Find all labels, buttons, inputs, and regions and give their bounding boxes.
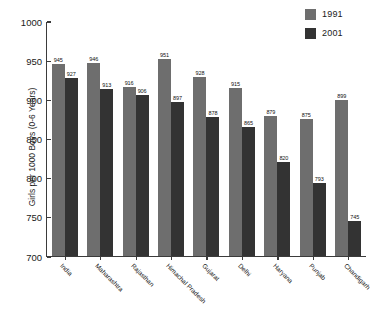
x-axis-label-cell: Himachal Pradesh — [153, 260, 189, 310]
y-axis-tick-label: 900 — [26, 95, 47, 106]
bar-slot: 951 — [158, 59, 171, 256]
bar-slot: 927 — [65, 78, 78, 256]
bar-value-label: 820 — [279, 155, 288, 161]
bar-group: 879820 — [260, 22, 295, 256]
bar-value-label: 915 — [231, 81, 240, 87]
bar-value-label: 916 — [125, 80, 134, 86]
bar-1991[interactable]: 915 — [229, 88, 242, 256]
x-axis-label-cell: Haryana — [259, 260, 295, 310]
bar-value-label: 928 — [196, 70, 205, 76]
bar-value-label: 745 — [350, 214, 359, 220]
bar-value-label: 879 — [266, 109, 275, 115]
bar-1991[interactable]: 946 — [87, 63, 100, 256]
bar-slot: 916 — [123, 87, 136, 256]
bar-2001[interactable]: 897 — [171, 102, 184, 256]
bar-group: 945927 — [47, 22, 82, 256]
bar-1991[interactable]: 928 — [193, 77, 206, 256]
bar-value-label: 906 — [138, 88, 147, 94]
bar-2001[interactable]: 878 — [206, 117, 219, 256]
bar-group: 946913 — [82, 22, 117, 256]
bar-value-label: 793 — [315, 176, 324, 182]
plot-area: 1000950900850800750700 94592794691391690… — [46, 22, 366, 257]
bar-groups: 9459279469139169069518979288789158658798… — [47, 22, 366, 256]
bar-group: 951897 — [153, 22, 188, 256]
bar-slot: 745 — [348, 221, 361, 256]
bar-value-label: 951 — [160, 52, 169, 58]
y-axis-tick-label: 950 — [26, 56, 47, 67]
x-axis-label: Punjab — [308, 262, 327, 281]
bar-group: 928878 — [189, 22, 224, 256]
y-axis-tick-label: 800 — [26, 173, 47, 184]
bar-value-label: 945 — [54, 57, 63, 63]
y-axis-tick-label: 750 — [26, 212, 47, 223]
bar-slot: 945 — [52, 64, 65, 256]
x-axis-label-cell: Rajasthan — [117, 260, 153, 310]
bar-value-label: 899 — [337, 93, 346, 99]
x-axis-label: Chandigarh — [343, 262, 372, 291]
bar-slot: 879 — [264, 116, 277, 256]
bar-slot: 928 — [193, 77, 206, 256]
bar-2001[interactable]: 927 — [65, 78, 78, 256]
x-axis-label-cell: Maharashtra — [82, 260, 118, 310]
bar-value-label: 875 — [302, 112, 311, 118]
bar-slot: 878 — [206, 117, 219, 256]
x-axis-label-cell: Punjab — [295, 260, 331, 310]
bar-value-label: 865 — [244, 120, 253, 126]
bar-slot: 946 — [87, 63, 100, 256]
bar-value-label: 927 — [67, 71, 76, 77]
bar-slot: 906 — [136, 95, 149, 256]
bar-2001[interactable]: 745 — [348, 221, 361, 256]
bar-group: 915865 — [224, 22, 259, 256]
bar-chart: 1991 2001 Girls per 1000 Boys (0-6 Years… — [0, 0, 384, 310]
bar-group: 899745 — [331, 22, 366, 256]
legend-label-1991: 1991 — [322, 9, 343, 20]
x-axis-label: Haryana — [272, 262, 294, 284]
y-axis-tick-label: 1000 — [21, 17, 47, 28]
legend-item-1991: 1991 — [305, 6, 377, 23]
x-axis-label-cell: India — [46, 260, 82, 310]
bar-2001[interactable]: 820 — [277, 162, 290, 256]
x-axis-label-cell: Delhi — [224, 260, 260, 310]
bar-1991[interactable]: 879 — [264, 116, 277, 256]
x-axis-label: Delhi — [237, 262, 252, 277]
bar-group: 875793 — [295, 22, 330, 256]
bar-slot: 899 — [335, 100, 348, 256]
bar-value-label: 897 — [173, 95, 182, 101]
bar-slot: 897 — [171, 102, 184, 256]
bar-1991[interactable]: 875 — [300, 119, 313, 256]
bar-slot: 820 — [277, 162, 290, 256]
bar-2001[interactable]: 906 — [136, 95, 149, 256]
bar-value-label: 946 — [89, 56, 98, 62]
bar-slot: 915 — [229, 88, 242, 256]
bar-group: 916906 — [118, 22, 153, 256]
x-axis-label: India — [59, 262, 74, 277]
y-axis-tick-label: 700 — [26, 252, 47, 263]
x-axis-label-cell: Gujarat — [188, 260, 224, 310]
x-axis-labels: IndiaMaharashtraRajasthanHimachal Prades… — [46, 260, 366, 310]
x-axis-label: Gujarat — [201, 262, 221, 282]
bar-1991[interactable]: 899 — [335, 100, 348, 256]
bar-2001[interactable]: 913 — [100, 89, 113, 256]
bar-1991[interactable]: 945 — [52, 64, 65, 256]
bar-1991[interactable]: 951 — [158, 59, 171, 256]
bar-slot: 875 — [300, 119, 313, 256]
y-axis-tick-mark — [47, 256, 51, 257]
bar-2001[interactable]: 793 — [313, 183, 326, 256]
bar-slot: 865 — [242, 127, 255, 256]
bar-slot: 913 — [100, 89, 113, 256]
bar-2001[interactable]: 865 — [242, 127, 255, 256]
y-axis-tick-label: 850 — [26, 134, 47, 145]
bar-slot: 793 — [313, 183, 326, 256]
bar-value-label: 913 — [102, 82, 111, 88]
legend-swatch-1991 — [305, 9, 316, 20]
x-axis-label-cell: Chandigarh — [331, 260, 367, 310]
bar-value-label: 878 — [209, 110, 218, 116]
bar-1991[interactable]: 916 — [123, 87, 136, 256]
